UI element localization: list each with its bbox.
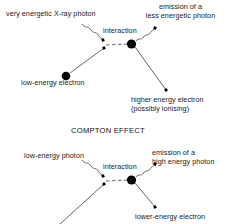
label-interaction-bottom: interaction xyxy=(103,163,137,171)
section-title-compton-effect: COMPTON EFFECT xyxy=(71,126,145,135)
label-incoming-low-energy-photon: low-energy photon xyxy=(24,152,84,160)
emitted-photon-arrow xyxy=(136,28,155,41)
interaction-dashed-link-bottom xyxy=(106,180,128,181)
incoming-electron-arrow xyxy=(70,48,104,73)
interaction-dashed-link xyxy=(106,44,128,45)
incoming-xray-photon-arrow xyxy=(82,24,103,40)
incoming-electron-arrow-bottom xyxy=(60,184,104,224)
diagram-page: very energetic X-ray photon interaction … xyxy=(0,0,230,224)
interaction-node-dot-bottom xyxy=(127,175,136,184)
label-low-energy-electron: low-energy electron xyxy=(21,79,85,87)
label-lower-energy-electron: lower-energy electron xyxy=(135,213,205,221)
higher-energy-electron-arrow xyxy=(135,47,166,90)
label-emitted-high-energy-photon-line2: high energy photon xyxy=(152,158,214,166)
lower-energy-electron-arrow xyxy=(135,183,155,207)
emitted-high-energy-photon-arrow xyxy=(136,164,155,177)
label-higher-energy-electron-line2: (possibly ionising) xyxy=(131,105,189,113)
label-incoming-xray-photon: very energetic X-ray photon xyxy=(6,10,96,18)
incoming-low-energy-photon-arrow xyxy=(82,160,103,176)
label-interaction-top: interaction xyxy=(103,27,137,35)
label-emitted-photon-line2: less energetic photon xyxy=(133,12,228,20)
